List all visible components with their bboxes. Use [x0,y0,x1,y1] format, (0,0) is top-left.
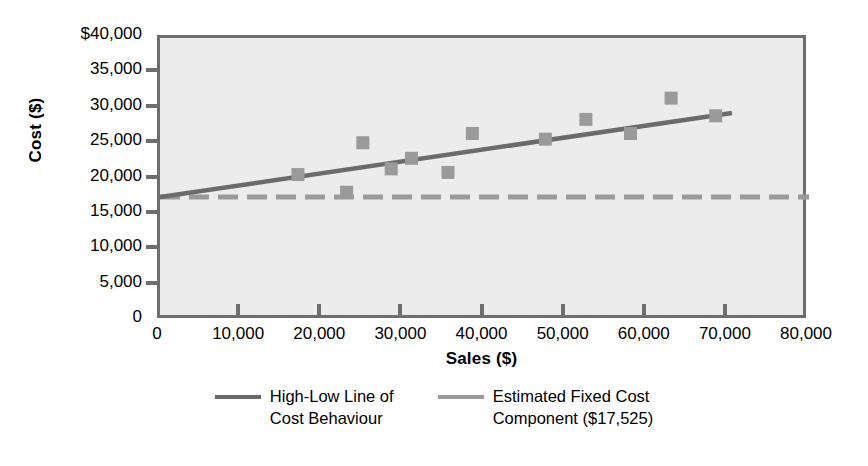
x-axis-tick-label: 20,000 [293,324,345,344]
x-axis-tick [398,304,402,318]
y-axis-tick-label: 25,000 [90,130,142,150]
x-axis-tick-label: 30,000 [374,324,426,344]
scatter-point-marker [356,136,369,149]
x-axis-tick-label: 50,000 [537,324,589,344]
high-low-line-segment [160,113,732,197]
x-axis-tick-label: 80,000 [780,324,832,344]
x-axis-tick [317,304,321,318]
high-low-cost-line [160,113,732,197]
scatter-point-marker [441,166,454,179]
y-axis-tick-label: 35,000 [90,59,142,79]
legend-item-high-low-line: High-Low Line of Cost Behaviour [215,386,394,452]
y-axis-tick-label: 15,000 [90,201,142,221]
x-axis-tick [480,304,484,318]
scatter-point-marker [385,162,398,175]
x-axis-tick-label: 70,000 [699,324,751,344]
y-axis-tick-label: 5,000 [99,272,142,292]
y-axis-tick-label: 20,000 [90,166,142,186]
scatter-point-marker [291,168,304,181]
y-axis-tick-label: 30,000 [90,95,142,115]
x-axis-tick-label: 40,000 [456,324,508,344]
x-axis-tick [723,304,727,318]
legend-label: Estimated Fixed Cost Component ($17,525) [493,386,654,430]
plot-svg [160,38,809,321]
legend-item-fixed-cost: Estimated Fixed Cost Component ($17,525) [438,386,654,452]
legend-dashed-line-swatch [438,395,484,399]
scatter-point-marker [340,186,353,199]
y-axis-tick-label: $40,000 [81,24,142,44]
scatter-point-marker [579,113,592,126]
scatter-point-marker [539,133,552,146]
scatter-point-marker [709,109,722,122]
chart-container: Cost ($) 05,00010,00015,00020,00025,0003… [0,0,868,466]
x-axis-tick [561,304,565,318]
chart-legend: High-Low Line of Cost Behaviour Estimate… [0,386,868,452]
x-axis-title: Sales ($) [157,349,806,369]
scatter-point-marker [665,92,678,105]
legend-solid-line-swatch [215,395,261,399]
x-axis-tick [642,304,646,318]
scatter-point-marker [405,152,418,165]
scatter-point-marker [466,127,479,140]
x-axis-tick [236,304,240,318]
legend-label: High-Low Line of Cost Behaviour [270,386,394,430]
plot-area [157,35,806,318]
x-axis-tick-label: 10,000 [212,324,264,344]
scatter-point-marker [624,127,637,140]
y-axis-tick-label: 0 [133,307,142,327]
x-axis-tick-label: 60,000 [618,324,670,344]
x-axis-tick-label: 0 [152,324,161,344]
y-axis-tick-label: 10,000 [90,236,142,256]
